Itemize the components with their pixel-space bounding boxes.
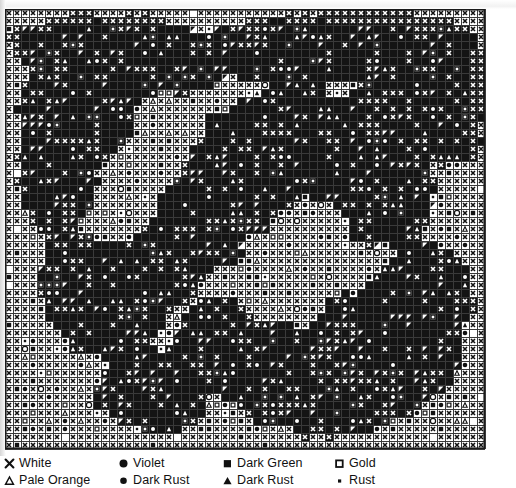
legend-label: White — [19, 455, 51, 471]
legend-item-violet: Violet — [118, 455, 165, 471]
legend-label: Dark Rust — [237, 472, 293, 488]
pattern-chart-page: White Violet Dark Green Gold — [0, 0, 516, 488]
legend-label: Dark Green — [237, 455, 303, 471]
circle-filled-icon — [118, 458, 129, 469]
legend-row-2: Pale Orange Dark Rust Dark Rust Rust — [0, 472, 516, 488]
circle-small-filled-icon — [118, 475, 129, 486]
stitch-grid-canvas — [5, 9, 486, 453]
square-filled-icon — [222, 458, 233, 469]
legend-item-dark-rust-triangle: Dark Rust — [222, 472, 293, 488]
legend-item-rust: Rust — [334, 472, 375, 488]
cross-x-icon — [4, 458, 15, 469]
legend-label: Violet — [133, 455, 165, 471]
dot-small-icon — [334, 475, 345, 486]
legend-label: Dark Rust — [133, 472, 189, 488]
legend-label: Gold — [349, 455, 376, 471]
stitch-chart — [5, 9, 486, 453]
legend-item-dark-rust-circle: Dark Rust — [118, 472, 189, 488]
legend-label: Pale Orange — [19, 472, 90, 488]
legend-label: Rust — [349, 472, 375, 488]
square-open-icon — [334, 458, 345, 469]
legend-row-1: White Violet Dark Green Gold — [0, 455, 516, 471]
legend-item-gold: Gold — [334, 455, 376, 471]
legend-item-dark-green: Dark Green — [222, 455, 303, 471]
triangle-filled-icon — [222, 475, 233, 486]
triangle-open-icon — [4, 475, 15, 486]
legend-item-pale-orange: Pale Orange — [4, 472, 90, 488]
legend-item-white: White — [4, 455, 51, 471]
legend: White Violet Dark Green Gold — [0, 455, 516, 488]
scan-top-edge — [0, 0, 516, 9]
